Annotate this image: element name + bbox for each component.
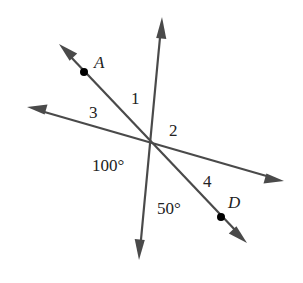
point-a-label: A: [93, 53, 105, 72]
angle-3-label: 3: [89, 103, 98, 122]
point-d-label: D: [227, 193, 241, 212]
angle-2-label: 2: [169, 121, 178, 140]
arrow-right-icon: [264, 174, 285, 184]
arrow-down-icon: [135, 239, 145, 260]
intersecting-lines-diagram: A D 1 3 2 100° 4 50°: [0, 0, 303, 283]
angle-50-label: 50°: [157, 199, 181, 218]
point-a-dot: [80, 68, 88, 76]
arrow-upleft-icon: [59, 44, 77, 61]
point-d-dot: [217, 213, 225, 221]
angle-100-label: 100°: [92, 156, 124, 175]
arrow-downright-icon: [229, 226, 247, 243]
arrow-left-icon: [27, 105, 48, 115]
arrow-up-icon: [156, 17, 166, 39]
shallow-line: [27, 105, 284, 184]
angle-1-label: 1: [131, 89, 140, 108]
angle-4-label: 4: [203, 172, 212, 191]
